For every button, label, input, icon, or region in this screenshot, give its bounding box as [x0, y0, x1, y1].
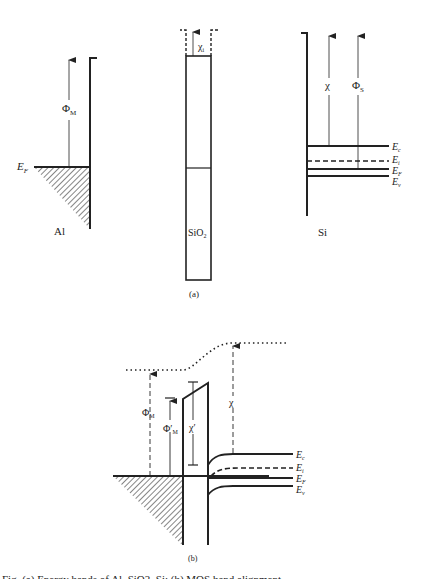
si-vacuum-edge	[301, 33, 307, 216]
caption-a: (a)	[189, 289, 199, 299]
chi-label: χ	[324, 79, 330, 91]
figure-caption-cutoff: Fig. (a) Energy bands of Al, SiO2, Si; (…	[0, 573, 423, 579]
chi-i-label: χi	[197, 41, 204, 53]
aluminum-band: ΦM EF Al	[16, 58, 97, 237]
ec-label: Ec	[391, 141, 401, 153]
fermi-label: EF	[16, 160, 29, 175]
caption-b: (b)	[188, 554, 198, 563]
ev-curve	[208, 486, 293, 495]
chi-prime-label: χ′	[188, 422, 196, 433]
vacuum-dash-right	[211, 30, 218, 56]
chi-label-b: χ	[228, 397, 234, 408]
oxide-barrier	[183, 383, 208, 545]
vacuum-dash-left	[180, 30, 186, 56]
si-label: Si	[318, 226, 327, 238]
ev-label-b: Ev	[295, 484, 305, 496]
ec-label-b: Ec	[295, 449, 305, 461]
metal-filled-states-hatch	[113, 476, 182, 545]
ec-curve	[208, 454, 293, 465]
sio2-label: SiO2	[188, 227, 207, 239]
phi-m-prime-label: Φ′M	[163, 423, 179, 435]
al-label: Al	[54, 225, 65, 237]
phi-m-label-b: ΦM	[142, 407, 155, 419]
part-a: ΦM EF Al χi SiO2 (a) χ ΦS	[16, 30, 402, 299]
mos-band-diagram: ΦM EF Al χi SiO2 (a) χ ΦS	[0, 0, 423, 579]
filled-states-hatch	[34, 167, 90, 229]
silicon-band: χ ΦS Ec Ei EF Ev Si	[301, 33, 402, 238]
figure-caption: Fig. (a) Energy bands of Al, SiO2, Si; (…	[2, 573, 281, 579]
oxide-band: χi SiO2 (a)	[180, 30, 218, 299]
ei-curve	[211, 468, 293, 476]
ev-label: Ev	[391, 176, 401, 188]
vacuum-level-dotted	[126, 343, 288, 370]
part-b: ΦM Φ′M χ′ χ Ec Ei EF Ev (b)	[113, 343, 306, 563]
phi-s-label: ΦS	[352, 79, 364, 94]
metal-vacuum-edge	[90, 58, 97, 229]
phi-m-label: ΦM	[62, 102, 77, 117]
